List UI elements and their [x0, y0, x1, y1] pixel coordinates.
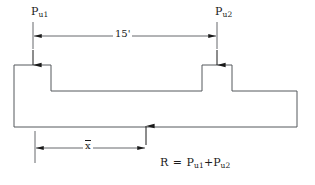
centroid-symbol: x — [85, 141, 91, 151]
centroid-dimension-label: x — [83, 141, 93, 151]
load-label-left: Pu1 — [31, 6, 48, 19]
equation-term2-subscript: u2 — [221, 161, 231, 170]
footing-diagram-canvas: Pu1 Pu2 15' x R = Pu1+Pu2 — [0, 0, 315, 185]
equation-plus: + — [204, 156, 213, 169]
load-label-left-subscript: u1 — [38, 10, 48, 19]
footing-diagram-svg — [0, 0, 315, 185]
span-dimension-label: 15' — [113, 29, 132, 39]
reaction-equation: R = Pu1+Pu2 — [160, 157, 231, 170]
centroid-symbol-text: x — [85, 140, 91, 151]
equation-term1-subscript: u1 — [194, 161, 204, 170]
load-label-right-subscript: u2 — [222, 10, 232, 19]
equation-equals: = — [173, 156, 182, 169]
footing-outline — [14, 65, 297, 127]
load-label-right: Pu2 — [215, 6, 232, 19]
overbar — [85, 140, 92, 141]
equation-term2-base: P — [213, 156, 220, 169]
equation-term1-base: P — [187, 156, 194, 169]
